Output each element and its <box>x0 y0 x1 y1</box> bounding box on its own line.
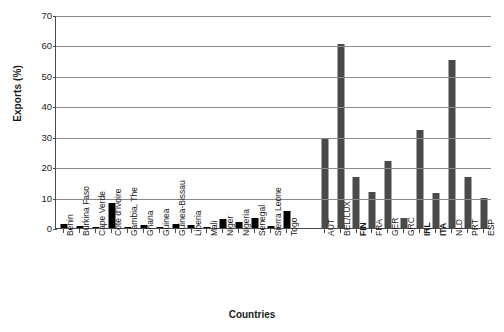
gridline <box>56 138 491 139</box>
x-tick-label: Liberia <box>194 210 203 236</box>
x-tick-mark <box>127 229 128 233</box>
bar-slot <box>444 16 460 228</box>
x-tick-mark <box>435 229 436 233</box>
bar-slot <box>412 16 428 228</box>
x-tick-mark <box>175 229 176 233</box>
x-tick-label: IRL <box>423 222 432 236</box>
x-tick-mark <box>387 229 388 233</box>
x-tick-label: ESP <box>487 219 496 236</box>
x-tick-mark <box>286 229 287 233</box>
x-tick-mark <box>467 229 468 233</box>
x-tick-label: FRA <box>375 219 384 236</box>
x-tick-label: Côte d'Ivoire <box>114 189 123 236</box>
gridline <box>56 107 491 108</box>
x-tick-label: Benin <box>66 214 75 236</box>
x-tick-label: Senegal <box>258 205 267 236</box>
x-tick-label: Nigeria <box>242 209 251 236</box>
bar-slot <box>364 16 380 228</box>
x-tick-mark <box>483 229 484 233</box>
x-tick-mark <box>451 229 452 233</box>
x-tick-mark <box>79 229 80 233</box>
bar-slot <box>349 16 365 228</box>
gridline <box>56 46 491 47</box>
bar <box>417 130 424 228</box>
x-tick-label: Niger <box>226 216 235 236</box>
y-tick-label: 30 <box>26 133 52 143</box>
y-tick-label: 0 <box>26 224 52 234</box>
x-tick-label: PRT <box>471 219 480 236</box>
y-axis-tick-labels: 010203040506070 <box>26 10 52 234</box>
x-tick-label: BEL/LUX <box>343 201 352 236</box>
y-axis-title: Exports (%) <box>12 39 23 149</box>
bar-slot <box>199 16 215 228</box>
bar-slot <box>231 16 247 228</box>
gridline <box>56 16 491 17</box>
x-tick-label: ITA <box>439 223 448 236</box>
y-tick-label: 20 <box>26 163 52 173</box>
bar-slot <box>215 16 231 228</box>
gridline <box>56 168 491 169</box>
x-tick-label: Gambia, The <box>130 187 139 236</box>
x-axis-tick-labels: BeninBurkina FasoCape VerdeCôte d'Ivoire… <box>55 236 491 306</box>
y-tick-label: 10 <box>26 194 52 204</box>
y-tick-label: 40 <box>26 102 52 112</box>
bar-slot <box>247 16 263 228</box>
x-tick-mark <box>403 229 404 233</box>
x-tick-label: Ghana <box>146 210 155 236</box>
x-tick-label: AUT <box>327 219 336 236</box>
x-tick-mark <box>254 229 255 233</box>
x-tick-label: NLD <box>455 219 464 236</box>
bar <box>321 139 328 228</box>
x-tick-mark <box>356 229 357 233</box>
y-tick-label: 70 <box>26 11 52 21</box>
bar <box>353 177 360 228</box>
x-tick-label: GER <box>391 218 400 236</box>
y-tick-label: 50 <box>26 72 52 82</box>
x-tick-mark <box>238 229 239 233</box>
x-tick-mark <box>111 229 112 233</box>
x-tick-label: Guinea <box>162 209 171 236</box>
x-tick-mark <box>371 229 372 233</box>
bar-chart: Exports (%) 010203040506070 BeninBurkina… <box>0 0 504 332</box>
x-tick-mark <box>191 229 192 233</box>
x-tick-label: Togo <box>290 218 299 236</box>
x-axis-title: Countries <box>0 309 504 320</box>
x-tick-label: Sierra Leone <box>274 187 283 236</box>
bar-slot <box>396 16 412 228</box>
x-tick-mark <box>419 229 420 233</box>
x-tick-mark <box>95 229 96 233</box>
x-tick-mark <box>63 229 64 233</box>
bar-slot <box>476 16 492 228</box>
x-tick-mark <box>270 229 271 233</box>
x-tick-label: Mali <box>210 220 219 236</box>
bar-slot <box>152 16 168 228</box>
x-tick-label: FIN <box>359 222 368 236</box>
x-tick-label: Burkina Faso <box>82 186 91 236</box>
bar-slot <box>380 16 396 228</box>
x-tick-mark <box>143 229 144 233</box>
x-tick-mark <box>324 229 325 233</box>
x-tick-mark <box>340 229 341 233</box>
bar <box>449 60 456 228</box>
bar-slot <box>333 16 349 228</box>
bar-slot <box>428 16 444 228</box>
bar-slot <box>317 16 333 228</box>
x-tick-label: GRC <box>407 217 416 236</box>
gridline <box>56 77 491 78</box>
x-tick-mark <box>206 229 207 233</box>
y-tick-label: 60 <box>26 41 52 51</box>
x-tick-label: Guinea-Bissau <box>178 180 187 236</box>
bar-slot <box>460 16 476 228</box>
x-tick-mark <box>159 229 160 233</box>
x-tick-mark <box>222 229 223 233</box>
x-tick-label: Cape Verde <box>98 191 107 236</box>
bar-slot <box>56 16 72 228</box>
